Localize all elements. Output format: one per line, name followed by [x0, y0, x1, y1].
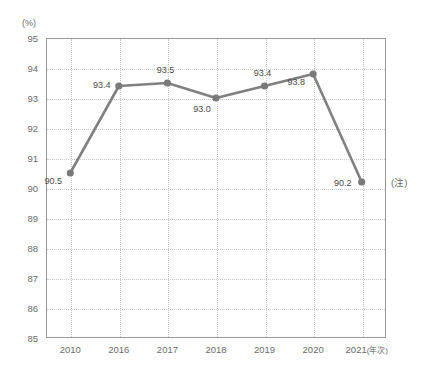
x-axis-tick-label: 2017 — [157, 344, 178, 355]
data-point-label: 90.2 — [334, 178, 352, 188]
y-axis-tick-label: 87 — [0, 273, 38, 284]
gridline-horizontal — [47, 219, 385, 220]
gridline-horizontal — [47, 309, 385, 310]
y-axis-tick-label: 86 — [0, 303, 38, 314]
gridline-horizontal — [47, 189, 385, 190]
gridline-vertical — [314, 39, 315, 337]
x-axis-tick-label: 2021(年次) — [346, 344, 388, 355]
gridline-vertical — [217, 39, 218, 337]
gridline-horizontal — [47, 159, 385, 160]
data-point-label: 93.4 — [93, 80, 111, 90]
gridline-horizontal — [47, 129, 385, 130]
y-axis-tick-label: 93 — [0, 93, 38, 104]
y-axis-tick-label: 85 — [0, 333, 38, 344]
y-axis-tick-label: 95 — [0, 33, 38, 44]
data-point-label: 93.8 — [287, 77, 305, 87]
x-axis-unit-label: (年次) — [367, 346, 388, 355]
x-axis-tick-label: 2010 — [60, 344, 81, 355]
y-axis-tick-label: 92 — [0, 123, 38, 134]
line-chart: (%) 9594939291908988878685 2010201620172… — [0, 0, 427, 376]
gridline-vertical — [363, 39, 364, 337]
x-axis-tick-label: 2019 — [254, 344, 275, 355]
gridline-vertical — [71, 39, 72, 337]
data-point-label: 93.4 — [254, 68, 272, 78]
y-axis-tick-label: 90 — [0, 183, 38, 194]
gridline-horizontal — [47, 99, 385, 100]
gridline-horizontal — [47, 249, 385, 250]
x-axis-tick-label: 2020 — [303, 344, 324, 355]
y-axis-unit-label: (%) — [22, 18, 36, 28]
y-axis-tick-label: 91 — [0, 153, 38, 164]
x-axis-tick-label: 2018 — [205, 344, 226, 355]
gridline-vertical — [168, 39, 169, 337]
note-annotation: (注) — [391, 175, 407, 189]
gridline-vertical — [266, 39, 267, 337]
data-point-label: 93.0 — [193, 104, 211, 114]
gridline-horizontal — [47, 279, 385, 280]
gridline-vertical — [120, 39, 121, 337]
gridline-horizontal — [47, 69, 385, 70]
y-axis-tick-label: 89 — [0, 213, 38, 224]
y-axis-tick-label: 94 — [0, 63, 38, 74]
y-axis-tick-label: 88 — [0, 243, 38, 254]
data-point-label: 90.5 — [45, 176, 63, 186]
data-point-label: 93.5 — [157, 65, 175, 75]
x-axis-tick-label: 2016 — [108, 344, 129, 355]
